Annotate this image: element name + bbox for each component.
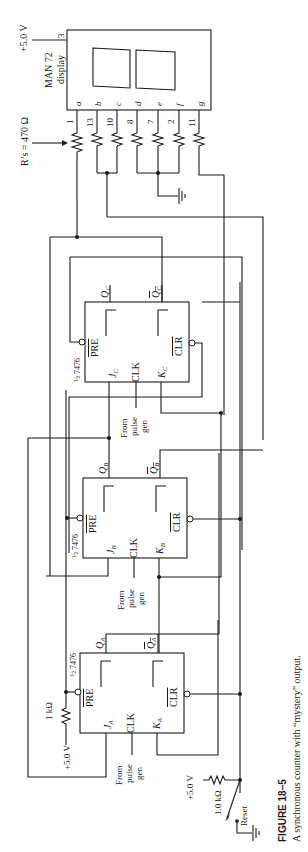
clr-bubble <box>184 691 190 697</box>
resistor-d <box>132 110 142 173</box>
ff-c-clr: CLR <box>173 336 184 356</box>
figure-number: FIGURE 18–5 <box>277 779 288 842</box>
reset-resistor <box>203 776 240 784</box>
clk-src: gen <box>139 420 149 433</box>
clk-src: gen <box>134 767 144 780</box>
flipflop-b: PRE CLR CLK JB KB QB QB ½ 7476 From puls… <box>71 462 193 610</box>
ground-icon <box>179 188 185 204</box>
ff-b-clr: CLR <box>171 512 182 532</box>
clk-src: pulse <box>126 589 136 608</box>
pullup-resistor-label: 1 kΩ <box>44 702 54 720</box>
clk-src: From <box>114 765 124 785</box>
ff-a-chip: ½ 7476 <box>69 653 78 677</box>
arrow-head-icon <box>62 140 68 146</box>
seg-g: g <box>195 101 205 106</box>
ground-icon <box>253 825 259 841</box>
clk-src: pulse <box>124 764 134 783</box>
ff-c-pre: PRE <box>89 339 100 357</box>
seg-d: d <box>133 101 143 106</box>
seg-c: c <box>113 102 123 106</box>
ff-b-qbar: QB <box>148 462 161 474</box>
pin-8: 8 <box>125 119 135 124</box>
counter-schematic: +5.0 V 3 MAN 72 display a b c d e f g 1 … <box>0 0 308 852</box>
ff-c-qbar: QC <box>150 286 163 298</box>
pullup-resistor <box>62 692 70 745</box>
display-supply-label: +5.0 V <box>18 24 29 52</box>
reset-label: Reset <box>239 806 249 826</box>
clk-src: gen <box>136 592 146 605</box>
pin-2: 2 <box>166 120 176 125</box>
ff-b-clk: CLK <box>128 537 139 558</box>
pin-1: 1 <box>65 120 75 125</box>
reset-resistor-label: 1.0 kΩ <box>213 790 223 815</box>
wire-jB <box>46 558 108 576</box>
pre-bubble <box>75 689 81 695</box>
seg-e: e <box>154 102 164 106</box>
seg-b: b <box>93 101 103 106</box>
ff-a-pre: PRE <box>84 689 95 707</box>
figure-caption: A synchronous counter with “mystery” out… <box>291 655 302 842</box>
display-name: MAN 72 <box>43 52 54 88</box>
qBbar-out <box>160 450 263 478</box>
ff-c-clk: CLK <box>130 361 141 382</box>
pin-13: 13 <box>85 118 95 128</box>
flipflop-a: PRE CLR CLK JA KA QA QA ½ 7476 From puls… <box>69 637 190 785</box>
ff-a-qbar: QA <box>145 637 158 649</box>
pre-bubble <box>79 339 85 345</box>
ff-b-q: QB <box>97 462 110 474</box>
flipflop-c: PRE CLR CLK JC KC QC QC ½ 7476 From puls… <box>73 285 195 438</box>
ff-a-clk: CLK <box>125 712 136 733</box>
wire-preC <box>70 257 79 342</box>
ff-c-chip: ½ 7476 <box>73 358 82 382</box>
ff-a-q: QA <box>94 637 107 649</box>
pin-11: 11 <box>187 118 197 127</box>
pin-7: 7 <box>146 119 156 124</box>
reset-circuit: +5.0 V 1.0 kΩ Reset <box>185 775 259 841</box>
clr-bubble <box>189 340 195 346</box>
pre-bubble <box>77 515 83 521</box>
ff-b-chip: ½ 7476 <box>71 534 80 558</box>
man72-display: +5.0 V 3 MAN 72 display <box>18 24 211 110</box>
display-body <box>67 30 211 110</box>
pullup-supply-label: +5.0 V <box>62 745 72 770</box>
clk-src: pulse <box>129 417 139 436</box>
resistor-e <box>153 110 163 173</box>
display-name-2: display <box>55 55 66 84</box>
ff-b-pre: PRE <box>87 515 98 533</box>
clk-src: From <box>119 418 129 438</box>
clk-src: From <box>116 590 126 610</box>
seg-a: a <box>73 101 83 106</box>
segment-resistor-label: R’s = 470 Ω <box>19 117 30 166</box>
ff-a-clr: CLR <box>168 687 179 707</box>
junction <box>238 692 242 696</box>
def-ground-wire <box>158 173 178 196</box>
switch-arrow-icon <box>225 813 230 821</box>
resistor-f <box>174 110 184 173</box>
resistor-g <box>194 110 224 280</box>
clr-bubble <box>187 516 193 522</box>
display-supply-pin: 3 <box>56 33 66 38</box>
reset-supply-label: +5.0 V <box>185 775 195 800</box>
pin-10: 10 <box>105 118 115 128</box>
